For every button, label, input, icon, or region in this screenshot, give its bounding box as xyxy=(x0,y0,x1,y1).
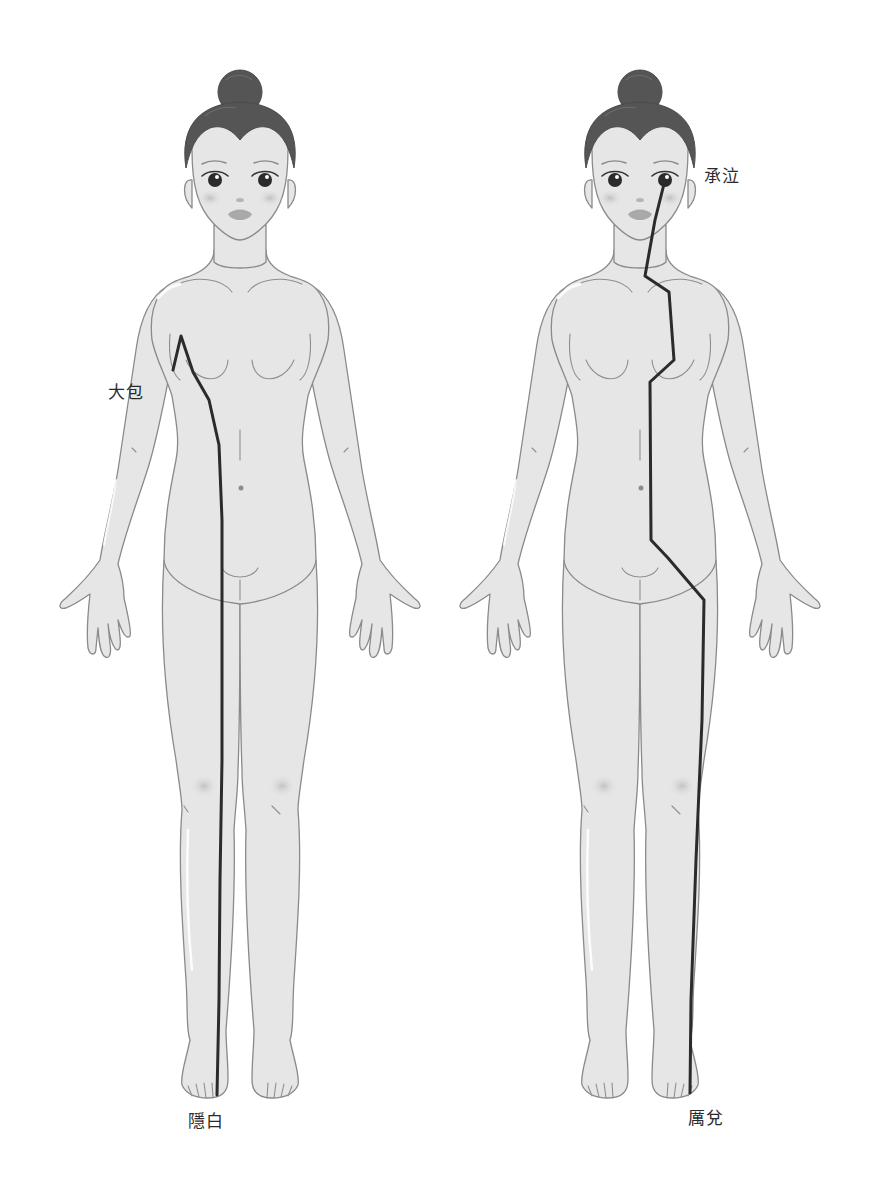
label-dabao: 大包 xyxy=(108,384,144,401)
label-chengqi: 承泣 xyxy=(704,168,740,185)
meridian-diagram xyxy=(0,0,871,1193)
label-yinbai: 隱白 xyxy=(188,1113,224,1130)
figure-left xyxy=(60,70,420,1098)
label-lidui: 厲兌 xyxy=(688,1110,724,1127)
figure-right xyxy=(460,70,820,1098)
